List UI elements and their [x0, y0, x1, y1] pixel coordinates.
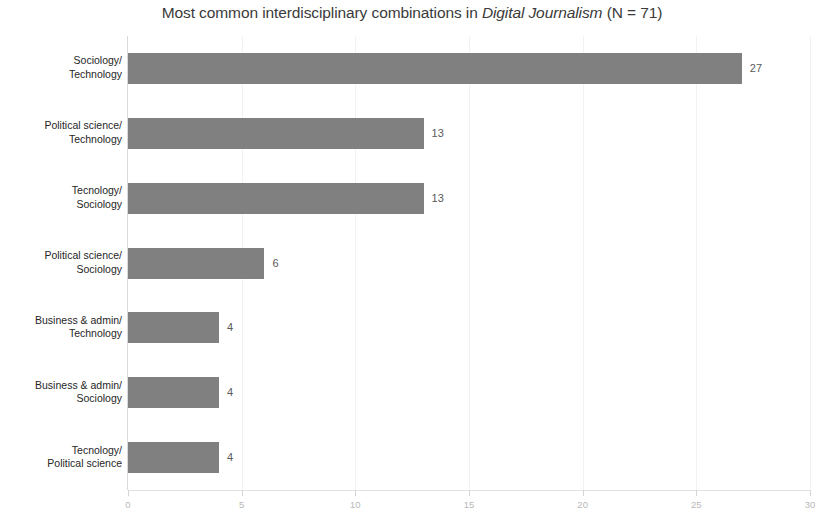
- x-axis-tick: [696, 490, 697, 496]
- bar[interactable]: [128, 248, 264, 279]
- bar[interactable]: [128, 53, 742, 84]
- category-label: Business & admin/Sociology: [2, 379, 122, 406]
- category-label-line: Political science: [2, 457, 122, 471]
- category-label-line: Sociology/: [2, 54, 122, 68]
- bar-value-label: 6: [272, 250, 278, 277]
- plot-area: 2713136444: [128, 36, 810, 490]
- bar-value-label: 13: [432, 185, 444, 212]
- bar-value-label: 4: [227, 314, 233, 341]
- chart-title-after: (N = 71): [602, 4, 662, 21]
- category-label-line: Technology: [2, 133, 122, 147]
- x-axis-tick-label: 25: [691, 499, 702, 510]
- category-label-line: Sociology: [2, 263, 122, 277]
- bar-value-label: 4: [227, 379, 233, 406]
- x-axis-tick: [583, 490, 584, 496]
- category-label-line: Technology: [2, 327, 122, 341]
- chart-title-emphasis: Digital Journalism: [482, 4, 603, 21]
- bar-row: 13: [128, 101, 810, 166]
- category-label: Tecnology/Political science: [2, 444, 122, 471]
- x-axis-tick-label: 30: [805, 499, 816, 510]
- x-axis-tick-label: 0: [125, 499, 130, 510]
- bar-row: 6: [128, 231, 810, 296]
- x-axis-tick: [810, 490, 811, 496]
- bar-row: 27: [128, 36, 810, 101]
- category-label-line: Business & admin/: [2, 314, 122, 328]
- bar-row: 4: [128, 295, 810, 360]
- category-label: Business & admin/Technology: [2, 314, 122, 341]
- category-label: Tecnology/Sociology: [2, 184, 122, 211]
- chart-title: Most common interdisciplinary combinatio…: [0, 4, 824, 22]
- x-axis-tick-label: 15: [464, 499, 475, 510]
- category-label-line: Political science/: [2, 249, 122, 263]
- chart-title-before: Most common interdisciplinary combinatio…: [162, 4, 482, 21]
- bar-row: 4: [128, 360, 810, 425]
- bar-chart: Most common interdisciplinary combinatio…: [0, 0, 824, 532]
- bar-row: 13: [128, 166, 810, 231]
- bar[interactable]: [128, 118, 424, 149]
- bar[interactable]: [128, 183, 424, 214]
- category-label-line: Tecnology/: [2, 184, 122, 198]
- gridline: [810, 36, 811, 490]
- x-axis-tick-label: 10: [350, 499, 361, 510]
- category-label: Political science/Technology: [2, 119, 122, 146]
- category-label-line: Tecnology/: [2, 444, 122, 458]
- bar[interactable]: [128, 377, 219, 408]
- category-label: Political science/Sociology: [2, 249, 122, 276]
- category-label-line: Sociology: [2, 392, 122, 406]
- x-axis-tick: [128, 490, 129, 496]
- bar-row: 4: [128, 425, 810, 490]
- bar-value-label: 13: [432, 120, 444, 147]
- category-label: Sociology/Technology: [2, 54, 122, 81]
- category-label-line: Political science/: [2, 119, 122, 133]
- bar[interactable]: [128, 442, 219, 473]
- x-axis-tick-label: 5: [239, 499, 244, 510]
- bar-value-label: 27: [750, 55, 762, 82]
- x-axis-tick-label: 20: [577, 499, 588, 510]
- bar-value-label: 4: [227, 444, 233, 471]
- category-label-line: Technology: [2, 68, 122, 82]
- x-axis-tick: [469, 490, 470, 496]
- x-axis-tick: [242, 490, 243, 496]
- x-axis-tick: [355, 490, 356, 496]
- category-label-line: Business & admin/: [2, 379, 122, 393]
- y-axis-line: [127, 36, 128, 490]
- bar[interactable]: [128, 312, 219, 343]
- category-label-line: Sociology: [2, 198, 122, 212]
